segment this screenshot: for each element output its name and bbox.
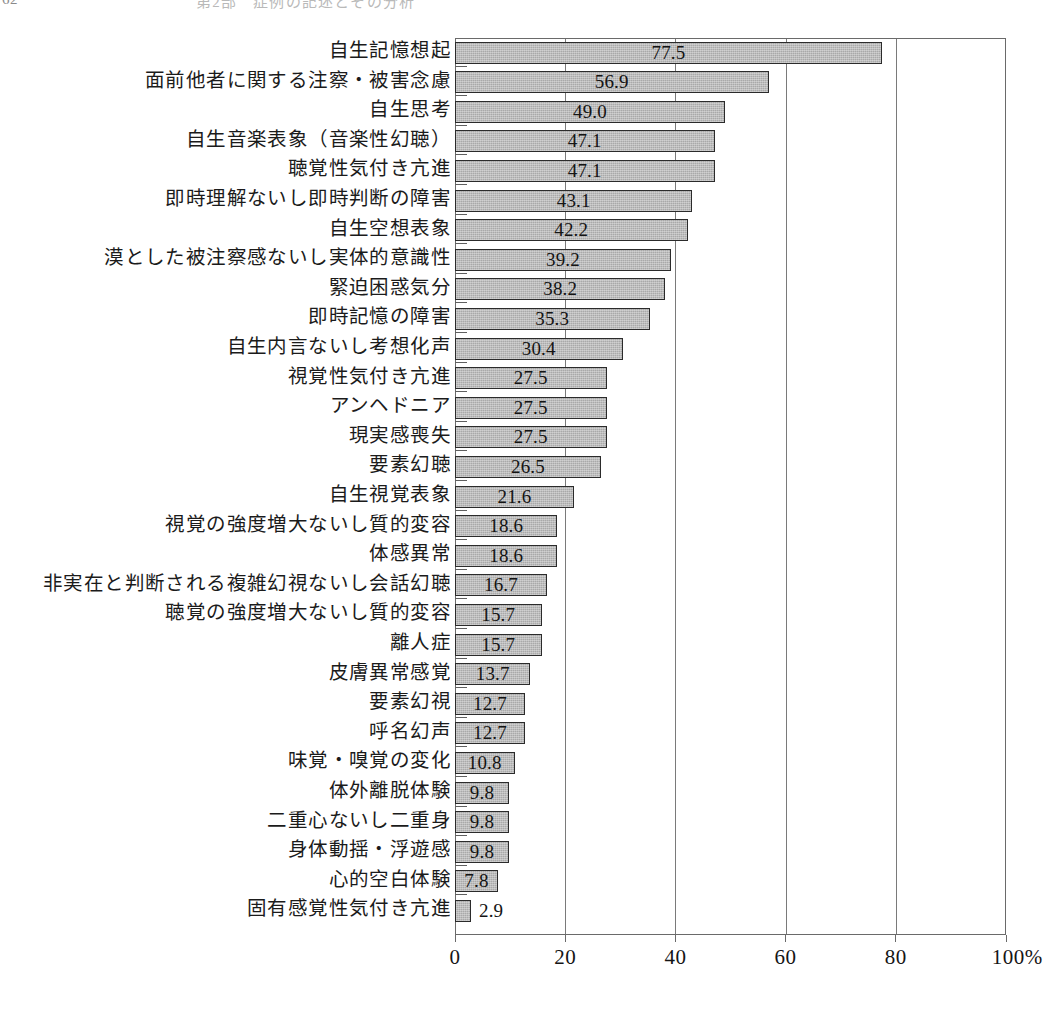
category-label: 漠とした被注察感ないし実体的意識性 [104, 247, 451, 269]
bar-container: 77.5 [455, 42, 882, 64]
bar-container: 47.1 [455, 160, 715, 182]
bar-value-label: 77.5 [455, 42, 882, 64]
bar-container: 18.6 [455, 515, 557, 537]
bar-container: 49.0 [455, 101, 725, 123]
category-tick [455, 687, 467, 688]
page-folio-number: 62 [2, 0, 18, 8]
category-label: 離人症 [390, 632, 451, 654]
category-label: 視覚性気付き亢進 [288, 366, 451, 388]
bar-row: 自生音楽表象（音楽性幻聴）47.1 [0, 127, 1059, 157]
x-axis-tick-label-20: 20 [554, 945, 576, 969]
bar-value-label: 30.4 [455, 338, 623, 360]
category-tick [455, 214, 467, 215]
bar-row: 視覚の強度増大ないし質的変容18.6 [0, 512, 1059, 542]
bar-row: 皮膚異常感覚13.7 [0, 660, 1059, 690]
category-tick [455, 421, 467, 422]
bar-container: 13.7 [455, 663, 530, 685]
bar-row: 緊迫困惑気分38.2 [0, 275, 1059, 305]
bar-value-label: 27.5 [455, 426, 607, 448]
x-axis-tick-100 [1006, 935, 1007, 942]
bar-container: 12.7 [455, 693, 525, 715]
running-title: 第2部 症例の記述とその分析 [196, 0, 415, 11]
bar-value-label: 12.7 [455, 693, 525, 715]
bar-value-label: 56.9 [455, 71, 769, 93]
x-axis-tick-label-0: 0 [450, 945, 461, 969]
x-axis: 020406080100% [0, 935, 1059, 981]
bar-container: 21.6 [455, 486, 574, 508]
bar-value-label: 9.8 [455, 841, 509, 863]
category-label: 自生思考 [369, 99, 451, 121]
bar-row: 固有感覚性気付き亢進2.9 [0, 896, 1059, 926]
category-tick [455, 273, 467, 274]
bar-row: 体外離脱体験9.8 [0, 778, 1059, 808]
bar-value-label: 9.8 [455, 811, 509, 833]
bar-row: 聴覚性気付き亢進47.1 [0, 156, 1059, 186]
bar-container: 18.6 [455, 545, 557, 567]
bar-value-label: 27.5 [455, 397, 607, 419]
category-tick [455, 539, 467, 540]
category-label: 面前他者に関する注察・被害念慮 [145, 70, 451, 92]
category-tick [455, 806, 467, 807]
bar-container: 27.5 [455, 367, 607, 389]
bar-row: 呼名幻声12.7 [0, 719, 1059, 749]
bar-container: 15.7 [455, 604, 542, 626]
bar-container: 27.5 [455, 426, 607, 448]
bar-row: 自生視覚表象21.6 [0, 482, 1059, 512]
category-tick [455, 243, 467, 244]
category-tick [455, 569, 467, 570]
bar-value-label: 12.7 [455, 722, 525, 744]
category-label: 身体動揺・浮遊感 [288, 839, 451, 861]
bar-value-label: 39.2 [455, 249, 671, 271]
category-tick [455, 302, 467, 303]
bar-container: 15.7 [455, 634, 542, 656]
bar-value-label: 13.7 [455, 663, 530, 685]
category-tick [455, 391, 467, 392]
bar-value-label: 18.6 [455, 545, 557, 567]
category-label: 即時記憶の障害 [308, 306, 451, 328]
bar-row: 自生記憶想起77.5 [0, 38, 1059, 68]
bar-container: 47.1 [455, 130, 715, 152]
bar-row: 視覚性気付き亢進27.5 [0, 364, 1059, 394]
bar-value-label: 26.5 [455, 456, 601, 478]
category-label: 聴覚性気付き亢進 [288, 158, 451, 180]
category-label: 即時理解ないし即時判断の障害 [165, 188, 451, 210]
category-tick [455, 362, 467, 363]
bar-value-label: 9.8 [455, 782, 509, 804]
category-label: 自生視覚表象 [329, 484, 451, 506]
bar-value-label: 2.9 [471, 900, 503, 922]
bar-value-label: 47.1 [455, 160, 715, 182]
bar-value-label: 7.8 [455, 870, 498, 892]
bar-value-label: 18.6 [455, 515, 557, 537]
bar-value-label: 38.2 [455, 278, 665, 300]
bar-container: 42.2 [455, 219, 688, 241]
bar-row: 漠とした被注察感ないし実体的意識性39.2 [0, 245, 1059, 275]
category-tick [455, 480, 467, 481]
category-tick [455, 510, 467, 511]
bar-row: アンヘドニア27.5 [0, 393, 1059, 423]
bar-value-label: 27.5 [455, 367, 607, 389]
category-label: 自生内言ないし考想化声 [227, 336, 451, 358]
x-axis-tick-label-100: 100% [992, 945, 1043, 969]
category-tick [455, 746, 467, 747]
category-tick [455, 658, 467, 659]
bar-row: 心的空白体験7.8 [0, 867, 1059, 897]
x-axis-tick-label-60: 60 [775, 945, 797, 969]
x-axis-tick-80 [895, 935, 896, 942]
bar-container: 10.8 [455, 752, 515, 774]
bar-container: 39.2 [455, 249, 671, 271]
category-label: 皮膚異常感覚 [329, 662, 451, 684]
category-label: 呼名幻声 [369, 721, 451, 743]
bar-value-label: 21.6 [455, 486, 574, 508]
category-label: 体外離脱体験 [329, 780, 451, 802]
category-tick [455, 125, 467, 126]
bar-container: 7.8 [455, 870, 498, 892]
x-axis-tick-label-80: 80 [885, 945, 907, 969]
bar-row: 要素幻視12.7 [0, 689, 1059, 719]
bar-container: 30.4 [455, 338, 623, 360]
bar-container: 9.8 [455, 811, 509, 833]
category-label: 自生記憶想起 [329, 40, 451, 62]
category-label: 現実感喪失 [349, 425, 451, 447]
bar-value-label: 47.1 [455, 130, 715, 152]
category-tick [455, 66, 467, 67]
bar-value-label: 15.7 [455, 634, 542, 656]
